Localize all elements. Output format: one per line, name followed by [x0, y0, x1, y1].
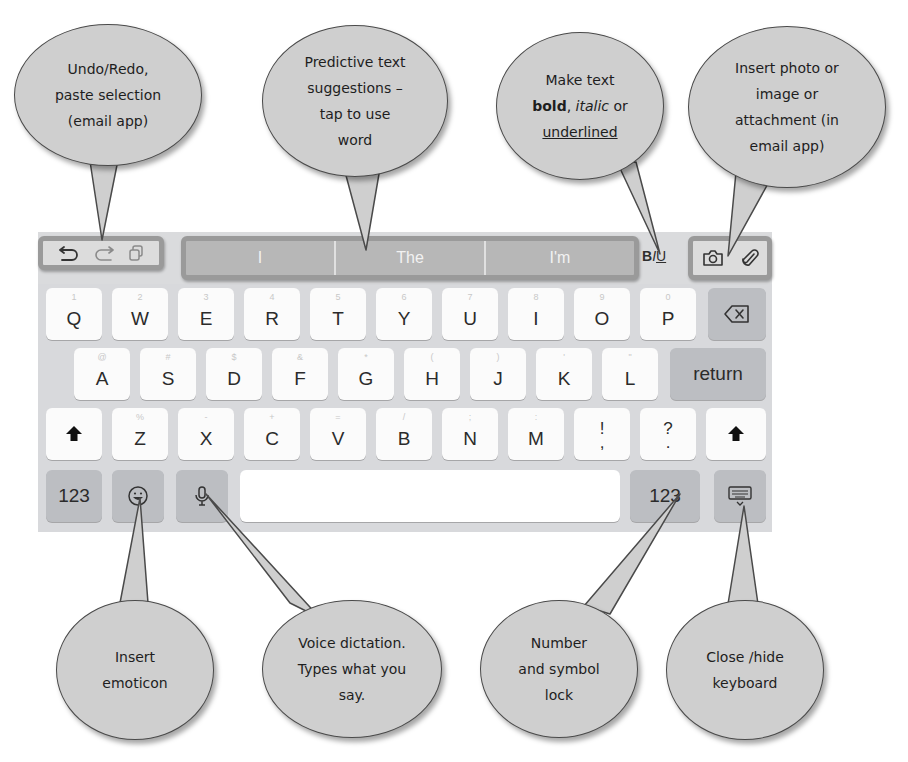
key-a[interactable]: @A: [74, 348, 130, 400]
key-y[interactable]: 6Y: [376, 288, 432, 340]
paperclip-icon[interactable]: [741, 248, 759, 268]
key-v[interactable]: =V: [310, 408, 366, 460]
paste-icon[interactable]: [128, 244, 144, 262]
key-o[interactable]: 9O: [574, 288, 630, 340]
callout-undo: Undo/Redo, paste selection (email app): [14, 24, 202, 166]
callout-hide: Close /hide keyboard: [666, 600, 824, 740]
key-z[interactable]: %Z: [112, 408, 168, 460]
undo-icon[interactable]: [58, 244, 80, 262]
key-g[interactable]: *G: [338, 348, 394, 400]
hide-keyboard-key[interactable]: [714, 470, 766, 522]
callout-attach: Insert photo or image or attachment (in …: [688, 26, 886, 188]
shift-key-left[interactable]: [46, 408, 102, 460]
emoji-icon: [127, 485, 149, 507]
key-p[interactable]: 0P: [640, 288, 696, 340]
format-buttons: BIU: [642, 248, 666, 264]
callout-dictation: Voice dictation. Types what you say.: [262, 600, 442, 738]
bold-button[interactable]: B: [642, 248, 652, 264]
key-b[interactable]: /B: [376, 408, 432, 460]
shift-icon: [727, 425, 745, 443]
dictation-key[interactable]: [176, 470, 228, 522]
return-key[interactable]: return: [670, 348, 766, 400]
delete-key[interactable]: [708, 288, 766, 340]
key-t[interactable]: 5T: [310, 288, 366, 340]
numbers-key-left[interactable]: 123: [46, 470, 102, 522]
key-q[interactable]: 1Q: [46, 288, 102, 340]
suggestion-2[interactable]: The: [334, 241, 484, 275]
insert-media-group: [688, 236, 772, 280]
callout-numlock: Number and symbol lock: [480, 600, 638, 738]
callout-predictive: Predictive text suggestions – tap to use…: [262, 25, 448, 177]
key-d[interactable]: $D: [206, 348, 262, 400]
numbers-key-right[interactable]: 123: [630, 470, 700, 522]
suggestion-3[interactable]: I'm: [484, 241, 634, 275]
key-i[interactable]: 8I: [508, 288, 564, 340]
undo-redo-paste-group: [38, 236, 164, 270]
key-s[interactable]: #S: [140, 348, 196, 400]
space-bar[interactable]: [240, 470, 620, 522]
suggestion-1[interactable]: I: [186, 241, 334, 275]
key-e[interactable]: 3E: [178, 288, 234, 340]
key-exclaim-comma[interactable]: !,: [574, 408, 630, 460]
callout-format: Make text bold, italic or underlined: [496, 32, 664, 180]
emoji-key[interactable]: [112, 470, 164, 522]
predictive-text-bar: I The I'm: [181, 236, 639, 280]
key-l[interactable]: "L: [602, 348, 658, 400]
key-j[interactable]: )J: [470, 348, 526, 400]
key-m[interactable]: :M: [508, 408, 564, 460]
underline-button[interactable]: U: [656, 248, 666, 264]
redo-icon[interactable]: [93, 244, 115, 262]
key-r[interactable]: 4R: [244, 288, 300, 340]
shift-icon: [65, 425, 83, 443]
key-question-period[interactable]: ?.: [640, 408, 696, 460]
backspace-icon: [723, 304, 751, 324]
key-c[interactable]: +C: [244, 408, 300, 460]
camera-icon[interactable]: [702, 249, 724, 267]
key-x[interactable]: -X: [178, 408, 234, 460]
ipad-keyboard: I The I'm BIU 1Q 2W 3E 4R 5T 6Y 7U 8I 9O…: [38, 232, 772, 532]
shift-key-right[interactable]: [706, 408, 766, 460]
callout-emoticon: Insert emoticon: [56, 600, 214, 740]
key-w[interactable]: 2W: [112, 288, 168, 340]
key-h[interactable]: (H: [404, 348, 460, 400]
keyboard-dismiss-icon: [727, 485, 753, 507]
key-n[interactable]: ;N: [442, 408, 498, 460]
shortcut-bar: I The I'm BIU: [38, 232, 772, 284]
microphone-icon: [194, 485, 210, 507]
key-u[interactable]: 7U: [442, 288, 498, 340]
key-k[interactable]: 'K: [536, 348, 592, 400]
key-f[interactable]: &F: [272, 348, 328, 400]
